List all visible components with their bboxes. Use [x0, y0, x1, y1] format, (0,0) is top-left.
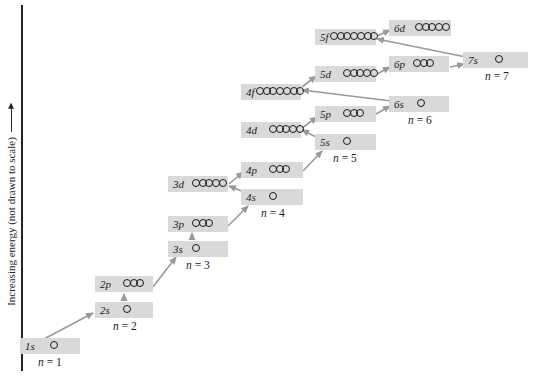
subshell-4s: 4s [241, 189, 303, 205]
shell-label-value: = 7 [491, 70, 509, 82]
arrow-2p-to-3s [153, 257, 176, 287]
arrow-4p-to-5s [303, 151, 322, 171]
subshell-2p: 2p [95, 276, 153, 292]
subshell-label: 3s [173, 242, 183, 256]
orbital-circles [417, 99, 424, 109]
orbital-circles [413, 59, 433, 69]
subshell-4p: 4p [241, 162, 303, 178]
orbital-circles [50, 341, 57, 351]
orbital-circle-icon [417, 99, 425, 107]
orbital-circle-icon [296, 125, 304, 133]
arrow-5p-to-6s [376, 106, 390, 114]
subshell-label: 5s [320, 135, 330, 149]
subshell-6p: 6p [389, 56, 449, 72]
shell-label-value: = 5 [339, 152, 357, 164]
orbital-circle-icon [370, 69, 378, 77]
orbital-circle-icon [192, 244, 200, 252]
subshell-label: 3d [173, 177, 184, 191]
orbital-circle-icon [426, 59, 434, 67]
arrow-1s-to-2s [44, 313, 93, 339]
orbital-circle-icon [50, 341, 58, 349]
subshell-3d: 3d [168, 176, 228, 192]
subshell-label: 2p [100, 277, 111, 291]
subshell-label: 5p [320, 107, 331, 121]
shell-label: n = 6 [408, 114, 432, 126]
orbital-circle-icon [219, 179, 227, 187]
subshell-5d: 5d [315, 66, 376, 82]
orbital-circles [192, 179, 226, 189]
subshell-label: 4p [246, 163, 257, 177]
subshell-label: 4d [246, 123, 257, 137]
orbital-circles [269, 125, 303, 135]
subshell-label: 7s [468, 53, 478, 67]
orbital-circles [269, 165, 289, 175]
orbital-circles [343, 109, 363, 119]
shell-label-value: = 2 [119, 320, 137, 332]
subshell-5p: 5p [315, 106, 376, 122]
orbital-circle-icon [495, 55, 503, 63]
shell-label-value: = 1 [44, 356, 62, 368]
subshell-4f: 4f [241, 84, 301, 100]
subshell-label: 6p [394, 57, 405, 71]
shell-label: n = 7 [485, 70, 509, 82]
shell-label: n = 5 [333, 152, 357, 164]
subshell-5f: 5f [315, 29, 376, 45]
subshell-6s: 6s [389, 96, 449, 112]
subshell-label: 3p [173, 217, 184, 231]
orbital-circle-icon [356, 109, 364, 117]
orbital-circle-icon [269, 192, 277, 200]
arrow-4f-to-5d [302, 76, 316, 87]
orbital-circles [192, 244, 199, 254]
arrow-6s-to-4f [302, 90, 391, 101]
orbital-circles [343, 69, 377, 79]
orbital-circles [495, 55, 502, 65]
subshell-1s: 1s [20, 338, 80, 354]
aufbau-energy-diagram: Increasing energy (not drawn to scale) 1… [0, 0, 537, 378]
orbital-circle-icon [205, 219, 213, 227]
subshell-6d: 6d [389, 20, 451, 36]
shell-label: n = 2 [113, 320, 137, 332]
shell-label-value: = 3 [192, 259, 210, 271]
subshell-label: 6s [394, 97, 404, 111]
arrow-3p-to-4s [228, 206, 248, 226]
shell-label: n = 3 [186, 259, 210, 271]
subshell-label: 1s [25, 339, 35, 353]
subshell-3s: 3s [168, 241, 228, 257]
orbital-circles [123, 279, 143, 289]
subshell-3p: 3p [168, 216, 228, 232]
orbital-circles [415, 23, 449, 33]
orbital-circles [192, 219, 212, 229]
subshell-label: 2s [100, 303, 110, 317]
orbital-circle-icon [442, 23, 450, 31]
shell-label: n = 4 [261, 207, 285, 219]
subshell-label: 4f [246, 85, 255, 99]
subshell-label: 5d [320, 67, 331, 81]
subshell-7s: 7s [463, 52, 528, 68]
arrow-7s-to-5f [377, 39, 466, 57]
shell-label-value: = 4 [267, 207, 285, 219]
arrow-6p-to-7s [450, 64, 464, 67]
subshell-4d: 4d [241, 122, 301, 138]
subshell-5s: 5s [315, 134, 376, 150]
orbital-circle-icon [282, 165, 290, 173]
orbital-circles [256, 87, 303, 97]
subshell-label: 4s [246, 190, 256, 204]
orbital-circles [269, 192, 276, 202]
orbital-circle-icon [343, 137, 351, 145]
orbital-circle-icon [136, 279, 144, 287]
subshell-label: 6d [394, 21, 405, 35]
orbital-circles [330, 32, 377, 42]
subshell-2s: 2s [95, 302, 153, 318]
orbital-circles [123, 305, 130, 315]
shell-label-value: = 6 [414, 114, 432, 126]
subshell-label: 5f [320, 30, 329, 44]
orbital-circles [343, 137, 350, 147]
shell-label: n = 1 [38, 356, 62, 368]
orbital-circle-icon [123, 305, 131, 313]
